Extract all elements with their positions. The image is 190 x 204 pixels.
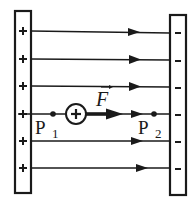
svg-text:1: 1 <box>52 126 59 141</box>
svg-text:P: P <box>138 117 149 138</box>
svg-text:2: 2 <box>155 126 162 141</box>
point-p2-label: P 2 <box>138 117 162 141</box>
force-vector <box>86 109 123 120</box>
field-line <box>31 59 170 60</box>
arrowhead-icon <box>136 164 148 172</box>
svg-text:P: P <box>35 117 46 138</box>
plus-icon <box>19 82 27 90</box>
plus-icon <box>19 164 27 172</box>
field-line <box>31 31 170 33</box>
point-p1-label: P 1 <box>35 117 59 141</box>
positive-charge <box>66 104 86 124</box>
force-label: F <box>95 85 113 110</box>
minus-signs <box>175 33 181 169</box>
arrowhead-icon <box>128 28 140 36</box>
field-line <box>31 86 170 87</box>
plus-icon <box>19 55 27 63</box>
svg-text:F: F <box>95 88 109 110</box>
point-p2-dot <box>151 111 157 117</box>
plus-signs <box>19 27 27 172</box>
field-lines <box>18 31 170 168</box>
electric-field-diagram: F P 1 P 2 <box>0 0 190 204</box>
arrowhead-icon <box>129 82 141 91</box>
point-p1-dot <box>50 111 56 117</box>
field-arrowheads <box>128 28 148 172</box>
plus-icon <box>19 137 27 145</box>
plus-icon <box>19 27 27 35</box>
arrowhead-icon <box>131 137 143 145</box>
arrowhead-icon <box>129 55 141 64</box>
arrowhead-icon <box>106 109 123 120</box>
